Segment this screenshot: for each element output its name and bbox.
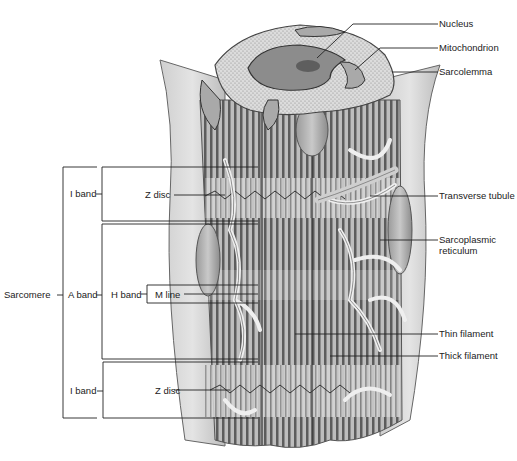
label-sarcolemma: Sarcolemma: [439, 66, 492, 77]
label-thick-filament: Thick filament: [439, 350, 498, 361]
label-z-disc-top: Z disc: [145, 189, 170, 200]
label-sarcomere: Sarcomere: [4, 289, 50, 300]
label-thin-filament: Thin filament: [439, 328, 493, 339]
label-mitochondrion: Mitochondrion: [439, 42, 499, 53]
label-i-band-top: I band: [70, 188, 96, 199]
label-h-band: H band: [111, 289, 142, 300]
label-nucleus: Nucleus: [439, 18, 473, 29]
label-sarcoplasmic-reticulum-line2: reticulum: [439, 245, 478, 256]
label-transverse-tubule: Transverse tubule: [439, 190, 515, 201]
label-a-band: A band: [68, 289, 98, 300]
caption-cut-off: [0, 455, 517, 461]
label-sarcoplasmic-reticulum-line1: Sarcoplasmic: [439, 234, 496, 245]
label-m-line: M line: [155, 289, 180, 300]
label-z-disc-bottom: Z disc: [155, 385, 180, 396]
label-i-band-bottom: I band: [70, 385, 96, 396]
myofibrils: [200, 100, 402, 448]
